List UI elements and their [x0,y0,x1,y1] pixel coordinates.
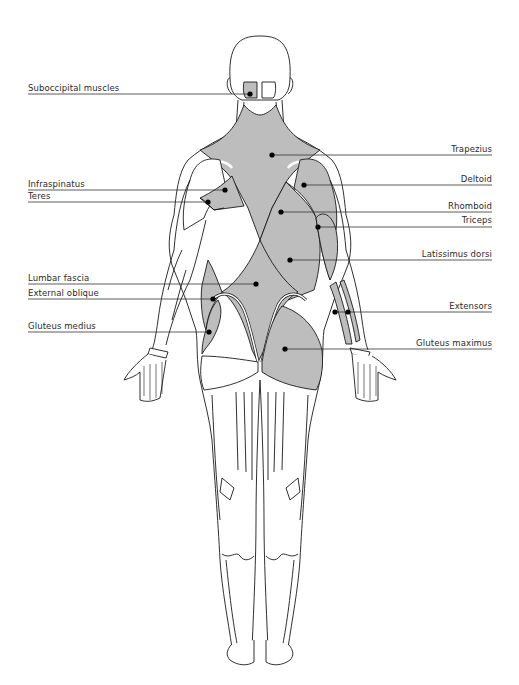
marker-dot-deltoid [301,182,306,187]
label-external-oblique: External oblique [28,288,99,298]
marker-dot-infraspinatus [222,187,227,192]
marker-dot-gluteus-maximus [282,346,287,351]
marker-dot-lumbar-fascia [253,281,258,286]
label-triceps: Triceps [462,215,492,225]
marker-dot-external-oblique [210,296,215,301]
label-latissimus-dorsi: Latissimus dorsi [422,249,492,259]
marker-dot-extensors-2 [345,309,350,314]
label-trapezius: Trapezius [451,144,492,154]
marker-dot-rhomboid [278,209,283,214]
marker-dot-latissimus-dorsi [287,257,292,262]
marker-dot-suboccipital [247,91,252,96]
marker-dot-gluteus-medius [206,329,211,334]
label-suboccipital-muscles: Suboccipital muscles [28,83,119,93]
label-deltoid: Deltoid [461,174,492,184]
marker-dot-triceps [315,224,320,229]
marker-dot-teres [205,199,210,204]
label-rhomboid: Rhomboid [448,201,492,211]
label-extensors: Extensors [449,301,492,311]
label-lumbar-fascia: Lumbar fascia [28,273,89,283]
label-gluteus-maximus: Gluteus maximus [416,338,492,348]
marker-dot-extensors-1 [332,309,337,314]
marker-dot-trapezius [269,152,274,157]
muscle-diagram: Suboccipital muscles Infraspinatus Teres… [0,0,519,685]
label-infraspinatus: Infraspinatus [28,179,85,189]
label-gluteus-medius: Gluteus medius [28,321,96,331]
label-teres: Teres [28,191,50,201]
